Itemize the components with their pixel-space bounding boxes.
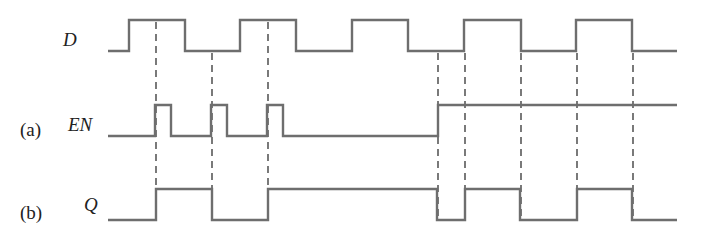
waveform-d: [108, 20, 677, 51]
signal-label-d: D: [62, 29, 77, 50]
waveforms: [108, 20, 677, 220]
part-label-a: (a): [20, 119, 41, 141]
signal-label-q: Q: [84, 194, 98, 215]
waveform-q: [108, 189, 677, 220]
timing-diagram: D (a) EN (b) Q: [0, 0, 718, 235]
part-label-b: (b): [20, 202, 42, 224]
signal-label-en: EN: [67, 114, 94, 135]
waveform-en: [108, 105, 677, 136]
